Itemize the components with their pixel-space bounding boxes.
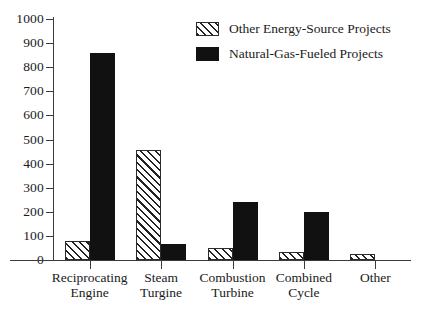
x-axis-tick [161,260,162,269]
y-axis-tick-label: 500 [2,133,44,147]
bar [90,53,115,260]
x-axis-category-label: Other [330,270,421,285]
legend-label: Other Energy-Source Projects [229,22,391,36]
bar [233,202,258,260]
x-axis-tick [90,260,91,269]
legend-item-other-energy-source: Other Energy-Source Projects [196,18,418,39]
x-axis-category-label-line: Steam [144,270,178,285]
y-axis-tick-label: 800 [2,60,44,74]
x-axis-category-label-line: Combined [276,270,332,285]
bar [136,150,161,260]
y-axis-tick [46,164,54,165]
legend-label: Natural-Gas-Fueled Projects [229,47,383,61]
y-axis-tick-label: 100 [2,229,44,243]
y-axis-tick [46,91,54,92]
y-axis-tick-label: 900 [2,36,44,50]
y-axis-tick [46,43,54,44]
bar [304,212,329,260]
y-axis-tick-label: 200 [2,205,44,219]
y-axis-tick [46,236,54,237]
y-axis-tick-label: 600 [2,108,44,122]
y-axis-tick-label: 400 [2,157,44,171]
bar [279,252,304,260]
x-axis-category-label-line: Combustion [199,270,265,285]
x-axis-line [10,260,411,261]
y-axis-tick-label: 300 [2,181,44,195]
bar [65,241,90,260]
y-axis-tick [46,140,54,141]
x-axis-category-label-line: Other [360,270,391,285]
x-axis-category-label-line: Cycle [258,285,349,300]
y-axis-tick [46,115,54,116]
bar [161,244,186,260]
y-axis-tick-label: 1000 [2,12,44,26]
bar [208,248,233,260]
y-axis-tick [46,67,54,68]
bar-chart: 10009008007006005004003002001000 Recipro… [0,0,421,311]
bar [350,254,375,260]
x-axis-tick [304,260,305,269]
y-axis-tick [46,19,54,20]
x-axis-tick [375,260,376,269]
chart-legend: Other Energy-Source Projects Natural-Gas… [196,18,418,68]
y-axis-tick-label: 700 [2,84,44,98]
legend-swatch-hatched-icon [196,22,219,36]
x-axis-tick [233,260,234,269]
y-axis-tick [46,212,54,213]
legend-swatch-solid-icon [196,47,219,61]
y-axis-tick [46,188,54,189]
legend-item-natural-gas-fueled: Natural-Gas-Fueled Projects [196,43,418,64]
